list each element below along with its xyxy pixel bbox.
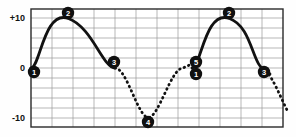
graph-canvas: +10 0 -10 1 2 3 4 5 [0, 0, 296, 137]
marker-3-zero-crossing-3: 3 [258, 66, 270, 78]
marker-5-zero-crossing-2: 5 [190, 56, 202, 68]
y-axis-label-zero: 0 [20, 63, 25, 73]
marker-label: 2 [227, 9, 231, 18]
marker-4-trough: 4 [142, 116, 154, 128]
marker-label: 3 [262, 68, 266, 77]
marker-label: 3 [112, 58, 116, 67]
marker-label: 5 [194, 58, 198, 67]
marker-1-cycle-restart: 1 [190, 68, 202, 80]
y-axis-label-plus-ten: +10 [10, 13, 25, 23]
marker-label: 1 [32, 68, 36, 77]
marker-label: 1 [194, 70, 198, 79]
marker-2-peak-2: 2 [223, 7, 235, 19]
y-axis-label-minus-ten: -10 [12, 113, 25, 123]
marker-3-zero-crossing-1: 3 [108, 56, 120, 68]
marker-label: 2 [66, 9, 70, 18]
marker-2-peak-1: 2 [62, 7, 74, 19]
marker-1-start: 1 [28, 66, 40, 78]
waveform-figure: +10 0 -10 1 2 3 4 5 [0, 0, 296, 137]
